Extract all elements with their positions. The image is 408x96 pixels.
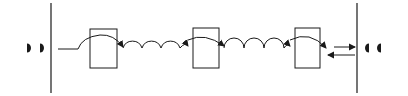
hop-chain-2 xyxy=(224,38,290,48)
left-end-glyphs xyxy=(27,44,44,53)
box-2 xyxy=(193,28,219,68)
schematic-diagram xyxy=(0,0,408,96)
half-disc-icon xyxy=(40,44,44,53)
box-3 xyxy=(295,28,320,68)
half-disc-icon xyxy=(365,44,369,53)
half-disc-icon xyxy=(377,44,381,53)
half-disc-icon xyxy=(27,44,31,53)
right-end-glyphs xyxy=(365,44,381,53)
hop-chain-1 xyxy=(123,41,188,48)
diagram-canvas xyxy=(0,0,408,96)
